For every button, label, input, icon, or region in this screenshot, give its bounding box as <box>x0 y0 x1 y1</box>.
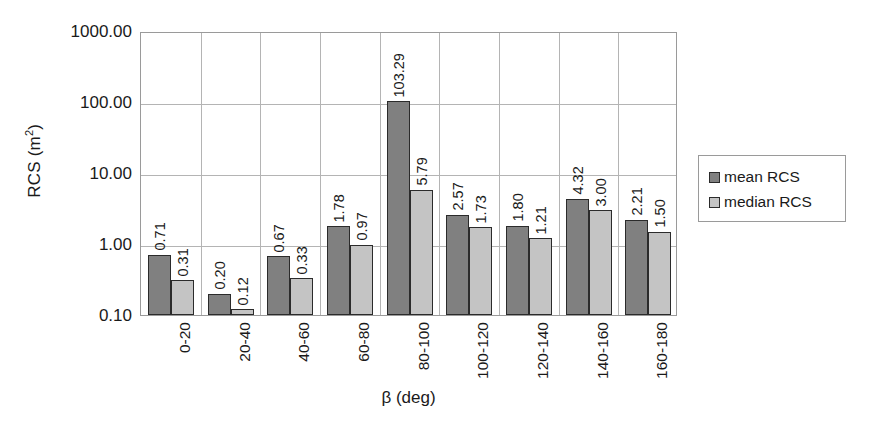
x-axis-tick-label: 60-80 <box>356 322 372 362</box>
bar-group: 0.710.31 <box>148 33 194 315</box>
bar-mean[interactable] <box>208 294 231 315</box>
bar-value-label: 2.57 <box>451 183 466 211</box>
gridline-vertical <box>201 33 202 315</box>
bar-value-label: 1.80 <box>510 194 525 222</box>
bar-group: 0.200.12 <box>208 33 254 315</box>
x-axis-tick-label: 140-160 <box>595 322 611 379</box>
x-axis-tick-label: 160-180 <box>654 322 670 379</box>
y-axis-tick-label: 100.00 <box>36 93 132 113</box>
gridline-vertical <box>320 33 321 315</box>
bar-value-label: 1.73 <box>474 195 489 223</box>
bar-median[interactable] <box>648 232 671 316</box>
bar-value-label: 0.33 <box>295 246 310 274</box>
bar-group: 1.780.97 <box>327 33 373 315</box>
x-axis-tick-label: 120-140 <box>535 322 551 379</box>
gridline-vertical <box>380 33 381 315</box>
y-axis-tick-label: 0.10 <box>36 306 132 326</box>
x-axis-tick-label: 0-20 <box>177 322 193 353</box>
gridline-vertical <box>559 33 560 315</box>
x-axis-tick-label: 80-100 <box>416 322 432 370</box>
bar-value-label: 4.32 <box>570 167 585 195</box>
bar-value-label: 0.12 <box>235 277 250 305</box>
y-axis-tick-label: 10.00 <box>36 164 132 184</box>
bar-group: 103.295.79 <box>387 33 433 315</box>
y-axis-tick-labels: 1000.00100.0010.001.000.10 <box>36 0 132 434</box>
bar-group: 4.323.00 <box>566 33 612 315</box>
y-axis-title-superscript: 2 <box>23 130 35 136</box>
x-axis-tick-label: 20-40 <box>237 322 253 362</box>
gridline-vertical <box>439 33 440 315</box>
rcs-bar-chart: RCS (m2) 1000.00100.0010.001.000.10 0.71… <box>0 0 871 434</box>
legend-item[interactable]: mean RCS <box>709 168 835 186</box>
bar-group: 0.670.33 <box>267 33 313 315</box>
bar-value-label: 3.00 <box>593 178 608 206</box>
x-axis-title: β (deg) <box>140 388 677 408</box>
legend-swatch-icon <box>709 197 720 208</box>
legend-item[interactable]: median RCS <box>709 193 835 211</box>
bar-value-label: 0.71 <box>152 222 167 250</box>
bar-value-label: 0.97 <box>354 213 369 241</box>
legend-label: median RCS <box>724 193 812 211</box>
bar-value-label: 103.29 <box>391 53 406 97</box>
bar-mean[interactable] <box>446 215 469 315</box>
bar-mean[interactable] <box>267 256 290 315</box>
gridline-vertical <box>260 33 261 315</box>
legend-swatch-icon <box>709 172 720 183</box>
bar-median[interactable] <box>529 238 552 315</box>
bar-mean[interactable] <box>327 226 350 315</box>
bar-value-label: 1.50 <box>653 199 668 227</box>
bar-value-label: 1.21 <box>533 206 548 234</box>
bar-value-label: 1.78 <box>331 194 346 222</box>
chart-legend: mean RCSmedian RCS <box>698 155 846 222</box>
bar-mean[interactable] <box>625 220 648 315</box>
bar-mean[interactable] <box>387 101 410 315</box>
bar-mean[interactable] <box>148 255 171 315</box>
y-axis-tick-label: 1.00 <box>36 235 132 255</box>
x-axis-tick-label: 40-60 <box>296 322 312 362</box>
bar-median[interactable] <box>410 190 433 315</box>
bar-median[interactable] <box>350 245 373 315</box>
bar-median[interactable] <box>589 210 612 315</box>
bar-group: 2.211.50 <box>625 33 671 315</box>
bar-mean[interactable] <box>566 199 589 315</box>
bar-value-label: 0.67 <box>272 224 287 252</box>
y-axis-tick-label: 1000.00 <box>36 22 132 42</box>
gridline-vertical <box>618 33 619 315</box>
bar-value-label: 2.21 <box>630 187 645 215</box>
bar-median[interactable] <box>469 227 492 315</box>
bar-median[interactable] <box>171 280 194 315</box>
bar-value-label: 0.20 <box>212 261 227 289</box>
bar-median[interactable] <box>290 278 313 315</box>
bar-value-label: 0.31 <box>175 248 190 276</box>
plot-area: 0.710.310.200.120.670.331.780.97103.295.… <box>140 32 677 316</box>
bar-group: 1.801.21 <box>506 33 552 315</box>
bar-median[interactable] <box>231 309 254 315</box>
bar-mean[interactable] <box>506 226 529 315</box>
bar-group: 2.571.73 <box>446 33 492 315</box>
gridline-vertical <box>499 33 500 315</box>
bar-value-label: 5.79 <box>414 158 429 186</box>
legend-label: mean RCS <box>724 168 800 186</box>
x-axis-tick-label: 100-120 <box>475 322 491 379</box>
